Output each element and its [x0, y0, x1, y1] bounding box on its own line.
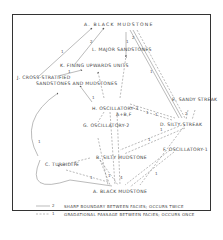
edge-label: 1 — [38, 140, 41, 144]
legend-dashed-text: GRADATIONAL PASSAGE BETWEEN FACIES; OCCU… — [64, 212, 195, 217]
node-b-silty-mudstone: B. SILTY MUDSTONE — [96, 155, 147, 160]
edge-label: 4 — [120, 176, 123, 180]
legend-solid-text: SHARP BOUNDARY BETWEEN FACIES; OCCURS TW… — [64, 204, 184, 209]
edge-label: 1 — [160, 128, 163, 132]
edge-label: 1 — [155, 172, 158, 176]
node-j-sandstones-mudstones: SANDSTONES AND MUDSTONES — [36, 81, 117, 86]
node-a-black-mudstone-bottom: A. BLACK MUDSTONE — [93, 189, 147, 194]
edge-label: 2 — [90, 40, 93, 44]
edge-label: 1 — [92, 96, 95, 100]
edge-label: 1 — [90, 176, 93, 180]
node-l-major-sandstones: L. MAJOR SANDSTONES — [92, 47, 152, 52]
edge-label: 1 — [68, 70, 71, 74]
edge-label: 2 — [185, 112, 188, 116]
node-g-oscillatory-2: G. OSCILLATORY-2 — [83, 123, 130, 128]
node-a-black-mudstone-top: A. BLACK MUDSTONE — [84, 22, 153, 27]
node-e-sandy-streak: E. SANDY STREAK — [172, 97, 217, 102]
node-h-oscillatory-3: H. OSCILLATORY-3 — [92, 106, 138, 111]
legend-solid-symbol: 2 — [52, 204, 55, 208]
node-a-plus-b-f: A+B,F — [116, 112, 132, 117]
edge-label: 1 — [148, 138, 151, 142]
node-k-fining-upwards-units: K. FINING UPWARDS UNITS — [60, 63, 129, 68]
edge-label: 1 — [150, 70, 153, 74]
edge-label: 1 — [146, 111, 149, 115]
legend-dashed-symbol: 1 — [52, 212, 55, 216]
node-j-cross-stratified: J. CROSS-STRATIFIED — [17, 75, 71, 80]
edge-label: 1 — [108, 174, 111, 178]
edge-label: 2 — [132, 36, 135, 40]
edge-label: 1 — [74, 162, 77, 166]
edge-label: 1 — [126, 40, 129, 44]
node-d-silty-streak: D. SILTY STREAK — [160, 122, 202, 127]
node-f-oscillatory-1: F. OSCILLATORY-1 — [163, 147, 208, 152]
edge-label: 1 — [61, 50, 64, 54]
edge-label: 1 — [155, 113, 158, 117]
